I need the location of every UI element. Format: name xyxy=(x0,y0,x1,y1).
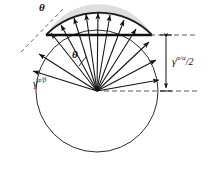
gamma-alpha-beta-label: γα/β xyxy=(33,76,47,90)
cap-arc xyxy=(46,13,152,35)
gamma-aa-denominator: 2 xyxy=(188,56,193,67)
ray-12 xyxy=(97,60,156,91)
gamma-alpha-alpha-half-label: γα/α/2 xyxy=(172,54,193,67)
gamma-aa-superscript: α/α xyxy=(176,54,185,62)
gamma-ab-superscript: α/β xyxy=(37,76,47,85)
dashed-tangent-line xyxy=(21,8,64,52)
theta-outer-label: θ xyxy=(39,1,45,13)
diagram-svg xyxy=(0,0,214,171)
figure-canvas: θ θ γα/β γα/α/2 xyxy=(0,0,214,171)
ray-8 xyxy=(97,15,110,91)
ray-7 xyxy=(97,13,98,91)
ray-2 xyxy=(39,54,97,91)
theta-inner-label: θ xyxy=(72,48,78,60)
